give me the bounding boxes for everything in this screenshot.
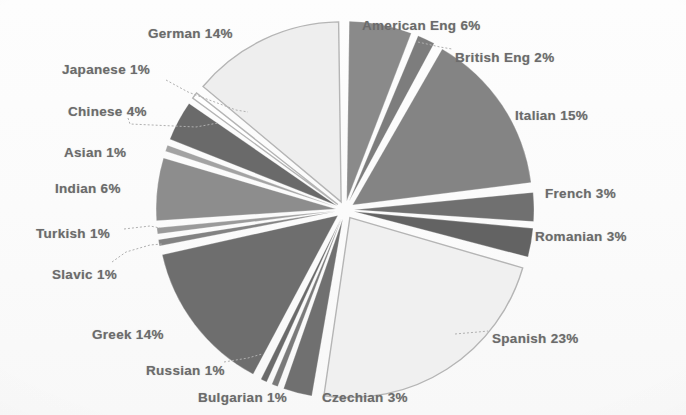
slavic-leader [112,244,162,262]
pie-label-czechian: Czechian 3% [322,390,408,405]
pie-label-italian: Italian 15% [515,108,588,123]
pie-label-french: French 3% [545,186,616,201]
pie-label-slavic: Slavic 1% [52,267,117,282]
pie-label-british-eng: British Eng 2% [455,50,554,65]
pie-label-greek: Greek 14% [92,327,164,342]
pie-label-indian: Indian 6% [55,181,121,196]
pie-label-japanese: Japanese 1% [62,62,150,77]
turkish-leader [124,226,160,229]
pie-label-russian: Russian 1% [146,363,225,378]
pie-label-asian: Asian 1% [64,145,126,160]
pie-label-german: German 14% [148,26,233,41]
pie-label-american-eng: American Eng 6% [362,18,481,33]
pie-label-chinese: Chinese 4% [68,104,147,119]
pie-slices [156,21,534,397]
pie-label-bulgarian: Bulgarian 1% [198,390,287,405]
pie-label-turkish: Turkish 1% [36,226,110,241]
pie-chart-figure: German 14%Japanese 1%Chinese 4%Asian 1%I… [0,0,686,415]
pie-label-spanish: Spanish 23% [492,331,579,346]
pie-label-romanian: Romanian 3% [535,229,627,244]
